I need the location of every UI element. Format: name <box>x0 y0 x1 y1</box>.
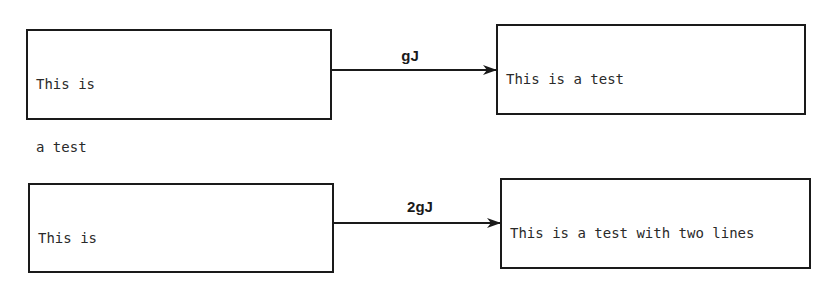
command-label-gj: gJ <box>401 47 419 64</box>
after-box-2: This is a test with two lines <box>500 178 811 269</box>
text-line: This is a test with two lines <box>510 223 809 244</box>
before-box-2: This is a test with two lines <box>28 183 334 273</box>
after-box-1: This is a test <box>496 24 806 115</box>
text-line: This is <box>38 228 332 249</box>
text-line: This is a test <box>506 69 804 90</box>
before-box-1: This is a test <box>26 29 332 120</box>
text-line: a test <box>36 137 330 158</box>
text-line: This is <box>36 74 330 95</box>
command-label-2gj: 2gJ <box>407 198 433 215</box>
